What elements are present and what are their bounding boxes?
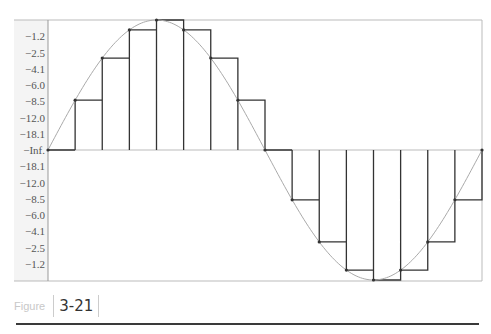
sample-point [74,99,77,102]
sample-point [480,148,483,151]
sample-point [426,240,429,243]
y-tick-label: −18.1 [20,128,45,140]
plot-frame [14,20,482,281]
sample-point [236,99,239,102]
y-tick-label: −12.0 [20,177,46,189]
y-tick-label: −4.1 [25,63,45,75]
y-tick-label: −8.5 [25,95,45,107]
figure-number: 3-21 [53,295,99,317]
sample-point [128,28,131,31]
sample-point [101,56,104,59]
sample-point [263,148,266,151]
caption-rule [16,323,479,325]
y-tick-label: −12.0 [20,112,46,124]
sample-point [155,18,158,21]
y-tick-label: −1.2 [25,258,45,270]
sampled-sine-plot: −1.2−2.5−4.1−6.0−8.5−12.0−18.1−Inf.−18.1… [0,0,491,290]
y-tick-label: −Inf. [23,144,45,156]
y-tick-label: −6.0 [25,79,45,91]
y-tick-label: −2.5 [25,242,45,254]
y-tick-label: −4.1 [25,225,45,237]
sample-point [209,56,212,59]
sample-point [182,28,185,31]
sample-point [318,240,321,243]
y-tick-label: −18.1 [20,160,45,172]
sample-point [399,269,402,272]
sample-point [46,148,49,151]
figure-label: Figure [14,300,45,312]
sample-point [453,198,456,201]
y-tick-label: −2.5 [25,47,45,59]
sample-point [291,198,294,201]
y-tick-label: −6.0 [25,209,45,221]
y-tick-label: −1.2 [25,30,45,42]
y-tick-label: −8.5 [25,193,45,205]
sample-point [345,269,348,272]
figure-caption: Figure 3-21 [14,293,99,319]
sample-point [372,278,375,281]
